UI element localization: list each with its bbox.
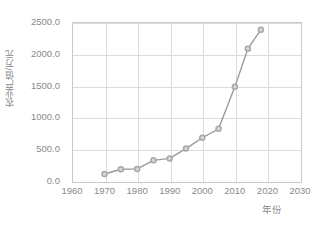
chart-figure: 农业产值/万元 年份 0.0500.01000.01500.02000.0250… (0, 0, 322, 228)
y-axis-tick-label: 500.0 (0, 144, 66, 154)
gridline-horizontal (73, 23, 301, 24)
y-axis-tick-label: 1500.0 (0, 81, 66, 91)
gridline-horizontal (73, 87, 301, 88)
x-axis-tick-label: 2030 (280, 186, 320, 196)
gridline-horizontal (73, 55, 301, 56)
gridline-vertical (106, 23, 107, 182)
gridline-vertical (236, 23, 237, 182)
gridline-vertical (138, 23, 139, 182)
plot-area (72, 22, 302, 183)
gridline-vertical (203, 23, 204, 182)
gridline-vertical (268, 23, 269, 182)
gridline-vertical (171, 23, 172, 182)
y-axis-tick-label: 0.0 (0, 176, 66, 186)
y-axis-tick-label: 2000.0 (0, 49, 66, 59)
gridline-horizontal (73, 150, 301, 151)
y-axis-tick-label: 1000.0 (0, 112, 66, 122)
gridline-horizontal (73, 118, 301, 119)
x-axis-title: 年份 (262, 204, 282, 215)
y-axis-tick-label: 2500.0 (0, 17, 66, 27)
